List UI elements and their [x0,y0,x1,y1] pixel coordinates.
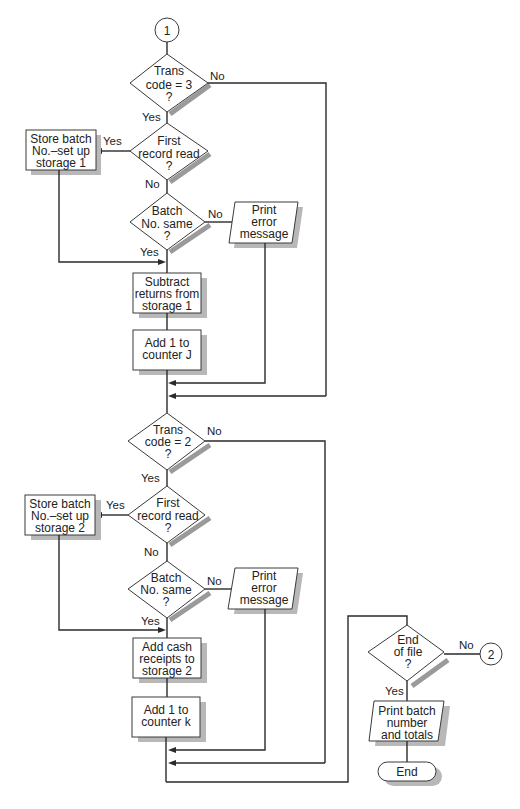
label-no: No [207,575,222,587]
io-print-error-2: Print error message [228,568,303,614]
svg-text:storage 1: storage 1 [36,156,86,170]
label-yes: Yes [385,685,404,697]
io-print-batch-totals: Print batch number and totals [369,701,450,746]
svg-text:?: ? [165,521,172,535]
svg-text:?: ? [166,159,173,173]
label-no: No [145,178,160,190]
process-store-batch-1: Store batch No.–set up storage 1 [26,130,101,175]
svg-text:?: ? [165,447,172,461]
process-store-batch-2: Store batch No.–set up storage 2 [25,495,101,540]
svg-text:counter k: counter k [141,715,191,729]
decision-batch-same-2: Batch No. same ? [128,561,210,620]
svg-text:storage 2: storage 2 [142,664,192,678]
svg-text:storage 1: storage 1 [142,299,192,313]
label-yes: Yes [142,111,161,123]
label-yes: Yes [141,615,160,627]
svg-text:?: ? [405,657,412,671]
label-no: No [144,546,159,558]
svg-text:message: message [240,227,289,241]
end-connector-label: 2 [488,648,495,662]
process-add-cash-receipts: Add cash receipts to storage 2 [133,638,207,683]
start-connector: 1 [155,18,179,42]
terminator-end: End [378,762,442,786]
svg-text:counter J: counter J [142,348,191,362]
decision-batch-same-1: Batch No. same ? [130,193,210,252]
svg-text:Trans: Trans [154,64,184,78]
decision-first-record-read-1: First record read ? [130,123,210,182]
label-yes: Yes [106,499,125,511]
svg-text:?: ? [164,229,171,243]
label-no: No [208,208,223,220]
end-connector: 2 [480,643,502,665]
start-connector-label: 1 [164,24,171,38]
process-add-counter-k: Add 1 to counter k [132,697,206,742]
flowchart: 1 Trans code = 3 ? No Yes First record r… [0,0,520,809]
svg-text:First: First [157,134,181,148]
decision-first-record-read-2: First record read ? [128,486,210,545]
svg-text:End: End [396,765,417,779]
svg-text:and totals: and totals [381,728,433,742]
svg-text:message: message [240,593,289,607]
label-no: No [207,425,222,437]
svg-text:?: ? [163,595,170,609]
svg-text:storage 2: storage 2 [35,521,85,535]
label-no: No [459,639,474,651]
label-yes: Yes [103,135,122,147]
svg-text:Batch: Batch [152,204,183,218]
svg-text:?: ? [166,90,173,104]
decision-end-of-file: End of file ? [368,625,448,686]
process-subtract-returns: Subtract returns from storage 1 [133,273,207,318]
io-print-error-1: Print error message [229,202,303,248]
svg-text:First: First [156,496,180,510]
decision-trans-code-3: Trans code = 3 ? [130,54,210,114]
decision-trans-code-2: Trans code = 2 ? [128,413,210,472]
label-yes: Yes [140,246,159,258]
process-add-counter-j: Add 1 to counter J [133,330,207,375]
label-no: No [210,70,225,82]
label-yes: Yes [141,472,160,484]
